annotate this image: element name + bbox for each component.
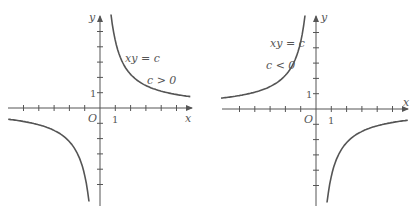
y-axis-label: y — [320, 11, 328, 24]
origin-label: O — [304, 113, 313, 126]
right-graph: y x O 1 1 xy = c c < 0 — [221, 11, 410, 206]
equation-label: xy = c — [125, 52, 160, 65]
left-graph: y x O 1 1 xy = c c > 0 — [8, 11, 192, 206]
hyperbola-branch-q4 — [327, 120, 408, 202]
condition-label: c < 0 — [266, 59, 295, 72]
x-axis-label: x — [403, 96, 410, 109]
origin-label: O — [88, 112, 97, 125]
x-unit-label: 1 — [328, 115, 334, 126]
hyperbola-branch-q2 — [221, 16, 305, 99]
x-axis-label: x — [185, 112, 192, 125]
y-unit-label: 1 — [90, 88, 96, 99]
hyperbola-branch-q3 — [8, 119, 89, 201]
hyperbola-figure: y x O 1 1 xy = c c > 0 y x O 1 1 xy = c … — [0, 0, 416, 217]
y-axis-label: y — [88, 11, 96, 24]
x-unit-label: 1 — [112, 114, 118, 125]
condition-label: c > 0 — [147, 74, 176, 87]
equation-label: xy = c — [270, 37, 305, 50]
y-unit-label: 1 — [306, 89, 312, 100]
